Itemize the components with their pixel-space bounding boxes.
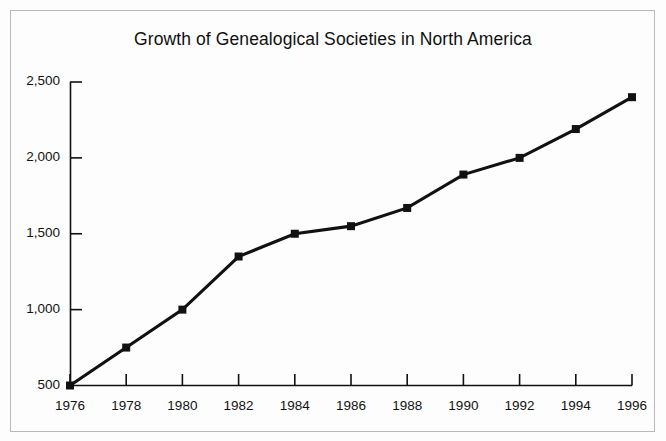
data-point-marker — [628, 93, 636, 101]
data-point-marker — [403, 204, 411, 212]
x-axis-tick-label: 1994 — [546, 398, 606, 413]
plot-area — [0, 0, 666, 441]
x-axis-tick-label: 1984 — [265, 398, 325, 413]
data-point-marker — [347, 222, 355, 230]
data-point-markers — [66, 93, 636, 389]
x-axis-tick-label: 1996 — [602, 398, 662, 413]
data-line-series — [70, 97, 632, 385]
y-axis-tick-label: 2,500 — [0, 73, 60, 88]
x-axis-tick-label: 1982 — [209, 398, 269, 413]
axis-lines — [70, 82, 632, 386]
x-axis-tick-label: 1978 — [96, 398, 156, 413]
x-axis-tick-label: 1992 — [490, 398, 550, 413]
y-axis-tick-label: 1,500 — [0, 225, 60, 240]
data-point-marker — [572, 125, 580, 133]
y-axis-tick-label: 500 — [0, 377, 60, 392]
data-point-marker — [459, 171, 467, 179]
data-point-marker — [122, 344, 130, 352]
x-axis-tick-label: 1988 — [377, 398, 437, 413]
y-axis-ticks — [70, 82, 82, 310]
y-axis-tick-label: 1,000 — [0, 301, 60, 316]
x-axis-tick-label: 1986 — [321, 398, 381, 413]
data-point-marker — [66, 382, 74, 390]
data-point-marker — [178, 306, 186, 314]
data-point-marker — [235, 253, 243, 261]
x-axis-tick-label: 1976 — [40, 398, 100, 413]
x-axis-ticks — [70, 374, 632, 386]
x-axis-tick-label: 1990 — [433, 398, 493, 413]
chart-figure: Growth of Genealogical Societies in Nort… — [0, 0, 666, 441]
data-point-marker — [516, 154, 524, 162]
y-axis-tick-label: 2,000 — [0, 149, 60, 164]
data-point-marker — [291, 230, 299, 238]
x-axis-tick-label: 1980 — [152, 398, 212, 413]
